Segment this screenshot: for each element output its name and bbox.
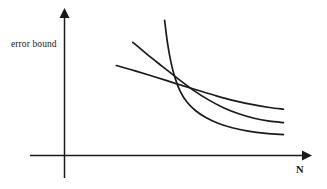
chart-plot-area <box>0 0 327 189</box>
chart-figure: error bound N <box>0 0 327 189</box>
chart-line-middle-curve <box>133 42 284 122</box>
chart-line-shallow-curve <box>116 66 283 110</box>
x-axis-arrowhead <box>302 151 312 161</box>
axes-group <box>30 8 312 178</box>
chart-series-group <box>116 20 283 134</box>
y-axis-arrowhead <box>60 8 70 18</box>
chart-line-steep-decay-curve <box>165 20 284 134</box>
x-axis-label: N <box>296 165 304 176</box>
y-axis-label: error bound <box>11 40 57 50</box>
